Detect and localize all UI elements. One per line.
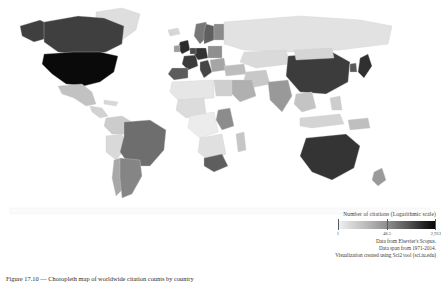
legend-tick-label-mid: 48.5 [383,231,391,236]
country-mongolia [294,48,334,60]
country-philippines [330,96,342,110]
legend-note-data-span: Data span from 1971-2014. [300,245,438,252]
country-north-africa [170,80,214,100]
legend-tick-max [435,219,436,230]
map-legend: Number of citations (Logarithmic scale) … [300,210,438,259]
figure-caption: Figure 17.10 — Choropleth map of worldwi… [6,274,306,283]
country-south-korea [350,63,357,72]
legend-note-data-source: Data from Elsevier's Scopus. [300,238,438,245]
legend-tick-label-min: 1 [337,231,339,236]
country-madagascar [236,132,246,152]
legend-gradient-wrap [338,221,436,230]
country-netherlands [190,48,196,54]
legend-tick-label-max: 2,913 [431,231,441,236]
legend-title: Number of citations (Logarithmic scale) [300,210,438,218]
legend-tick-min [338,219,339,230]
country-finland [214,24,224,40]
country-papua-new-guinea [348,118,370,130]
world-choropleth-map [0,0,440,215]
country-balkans [210,58,226,72]
country-turkey [224,64,246,76]
country-poland [208,46,222,58]
country-egypt [214,80,232,96]
legend-tick-labels: 1 48.5 2,913 [338,230,436,238]
country-russia [224,16,392,52]
legend-tick-mid [387,219,388,230]
figure-container: Number of citations (Logarithmic scale) … [0,0,440,272]
legend-note-tool-credit: Visualization created using Sci2 tool (s… [300,252,438,259]
country-ireland [174,45,180,52]
